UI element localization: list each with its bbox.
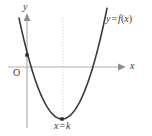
symmetry-label-equals: = [58, 120, 66, 131]
x-axis-label: x [130, 61, 134, 71]
y-axis-arrow-icon [24, 13, 31, 21]
x-axis [8, 64, 126, 71]
parabola-figure: y O x y=f(x) x=k [0, 0, 152, 136]
curve-equation-label: y=f(x) [106, 14, 132, 24]
x-axis-arrow-icon [118, 64, 126, 71]
curve-equation-equals: = [110, 13, 118, 24]
y-intercept-marker [25, 53, 28, 56]
y-axis [24, 13, 31, 128]
curve-equation-close-paren: ) [129, 13, 132, 24]
origin-label: O [13, 68, 20, 78]
y-axis-label: y [23, 2, 27, 12]
symmetry-label-rhs: k [66, 120, 70, 131]
axis-of-symmetry-label: x=k [54, 121, 71, 131]
